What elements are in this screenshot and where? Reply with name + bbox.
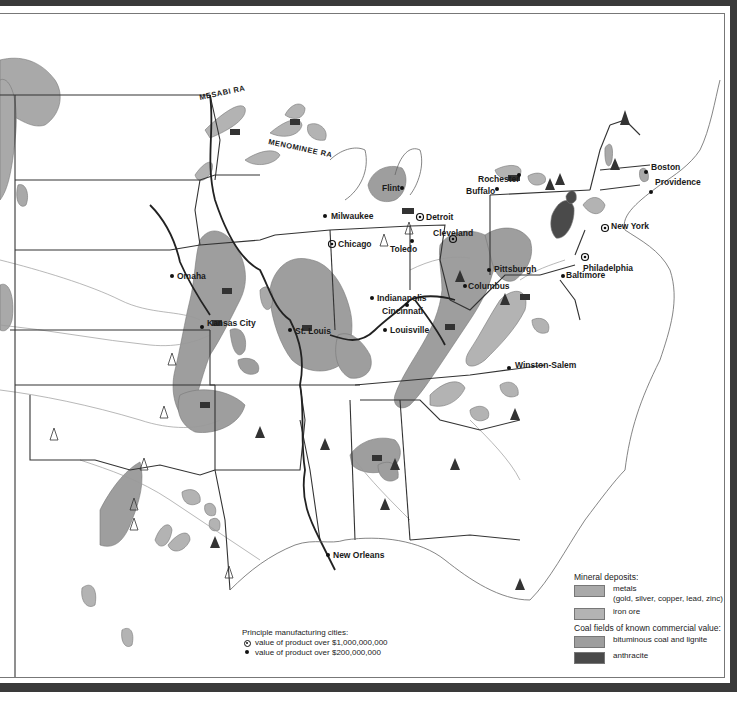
city-label-winston-salem: Winston-Salem — [515, 360, 577, 370]
city-label-new-orleans: New Orleans — [333, 550, 385, 560]
city-label-kansas-city: Kansas City — [207, 318, 256, 328]
city-label-pittsburgh: Pittsburgh — [494, 264, 537, 274]
forest-icon — [320, 438, 330, 450]
legend-row-large-city: value of product over $1,000,000,000 — [242, 638, 442, 648]
city-label-cleveland: Cleveland — [433, 228, 473, 238]
cities-legend: Principle manufacturing cities: value of… — [242, 628, 442, 658]
coal-car-icon — [520, 294, 530, 300]
legend-row-small-city: value of product over $200,000,000 — [242, 648, 442, 658]
iron-ore-swatch — [574, 608, 605, 620]
forest-icon — [545, 178, 555, 190]
coal-car-icon — [372, 455, 382, 461]
forest-icon — [515, 578, 525, 590]
bituminous-label: bituminous coal and lignite — [613, 635, 707, 645]
city-label-rochester: Rochester — [478, 174, 520, 184]
city-dot-buffalo — [495, 187, 499, 191]
city-label-boston: Boston — [651, 162, 680, 172]
forest-icon — [255, 426, 265, 438]
legend-row-bituminous: bituminous coal and lignite — [574, 635, 734, 648]
city-label-columbus: Columbus — [468, 281, 510, 291]
city-label-toledo: Toledo — [390, 244, 417, 254]
city-label-milwaukee: Milwaukee — [331, 211, 374, 221]
city-dot-baltimore — [561, 274, 565, 278]
oil-derrick-icon — [50, 428, 58, 440]
city-label-buffalo: Buffalo — [466, 186, 495, 196]
small-city-label: value of product over $200,000,000 — [255, 648, 381, 657]
truck-icon — [402, 208, 414, 214]
mesabi-range-label: MESABI RA — [199, 83, 247, 102]
city-dot-milwaukee — [323, 214, 327, 218]
oil-derrick-icon — [168, 353, 176, 365]
legend-row-metals: metals(gold, silver, copper, lead, zinc) — [574, 584, 734, 604]
deposit-regions — [0, 58, 648, 646]
city-label-indianapolis: Indianapolis — [377, 293, 427, 303]
coal-car-icon — [222, 288, 232, 294]
city-label-cincinnati: Cincinnati — [382, 306, 423, 316]
large-city-label: value of product over $1,000,000,000 — [255, 638, 388, 647]
city-dot-toledo — [410, 239, 414, 243]
city-label-omaha: Omaha — [177, 271, 206, 281]
city-dot-st-louis — [288, 328, 292, 332]
legend-row-anthracite: anthracite — [574, 651, 734, 664]
city-dot-columbus — [463, 284, 467, 288]
metals-label: metals — [613, 584, 637, 593]
oil-derrick-icon — [405, 222, 413, 234]
city-dot-winston-salem — [507, 366, 511, 370]
forest-icon — [620, 110, 630, 125]
bituminous-swatch — [574, 636, 605, 648]
metals-detail: (gold, silver, copper, lead, zinc) — [613, 594, 723, 603]
forest-icon — [450, 458, 460, 470]
forest-icon — [210, 536, 220, 548]
oil-derrick-icon — [380, 234, 388, 246]
city-dot-providence — [649, 190, 653, 194]
city-dot-boston — [644, 170, 648, 174]
city-label-louisville: Louisville — [390, 325, 429, 335]
coal-car-icon — [230, 129, 240, 135]
iron-ore-label: iron ore — [613, 607, 640, 617]
large-city-icon — [244, 640, 251, 647]
coal-car-icon — [200, 402, 210, 408]
city-label-detroit: Detroit — [426, 212, 454, 222]
forest-icon — [380, 498, 390, 510]
resource-symbols — [200, 110, 630, 590]
city-label-flint: Flint — [382, 183, 400, 193]
city-dot-pittsburgh — [487, 268, 491, 272]
forest-icon — [555, 173, 565, 185]
city-label-new-york: New York — [611, 221, 649, 231]
anthracite-label: anthracite — [613, 651, 648, 661]
city-dot-omaha — [170, 274, 174, 278]
cities-legend-title: Principle manufacturing cities: — [242, 628, 442, 638]
city-label-st-louis: St. Louis — [295, 326, 331, 336]
oil-derrick-icon — [160, 406, 168, 418]
city-dot-new-orleans — [326, 553, 330, 557]
inner-rule-bottom — [0, 677, 725, 678]
anthracite-swatch — [574, 652, 605, 664]
map-frame-bottom — [0, 683, 737, 692]
city-label-providence: Providence — [655, 177, 701, 187]
mineral-legend: Mineral deposits: metals(gold, silver, c… — [574, 572, 734, 667]
city-dot-flint — [400, 186, 404, 190]
legend-row-iron: iron ore — [574, 607, 734, 620]
city-dot-kansas-city — [200, 325, 204, 329]
map-frame-top — [0, 0, 735, 6]
coal-legend-title: Coal fields of known commercial value: — [574, 623, 734, 633]
coal-car-icon — [445, 324, 455, 330]
metals-swatch — [574, 585, 605, 597]
small-city-icon — [245, 650, 249, 654]
coal-car-icon — [290, 119, 300, 125]
city-label-chicago: Chicago — [338, 239, 372, 249]
city-dot-indianapolis — [370, 296, 374, 300]
mineral-legend-title: Mineral deposits: — [574, 572, 734, 582]
forest-icon — [510, 408, 520, 420]
city-label-baltimore: Baltimore — [566, 270, 605, 280]
state-boundaries — [0, 95, 650, 677]
city-dot-louisville — [383, 328, 387, 332]
